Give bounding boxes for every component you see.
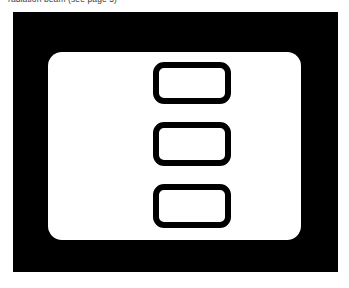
white-display-panel: [48, 52, 301, 240]
caption-label: radiation beam (see page 5): [8, 0, 228, 5]
figure-outer-frame: [13, 12, 338, 272]
rounded-box-upper: [153, 62, 231, 104]
figure-page: radiation beam (see page 5): [0, 0, 349, 288]
rounded-box-lower: [153, 184, 231, 228]
rounded-box-middle: [153, 122, 231, 166]
rounded-box-stack: [153, 62, 231, 228]
caption-clipped-text: radiation beam (see page 5): [8, 0, 228, 5]
